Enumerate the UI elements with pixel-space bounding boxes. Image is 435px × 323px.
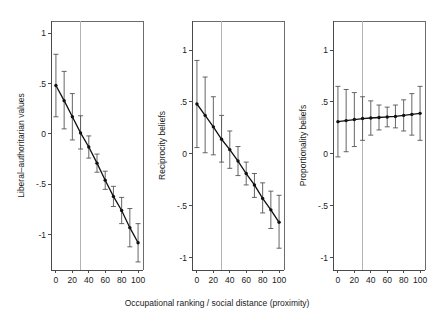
y-tick-label: 1: [41, 28, 46, 38]
panel-chart-svg: 1.50-.5-1020406080100Liberal–authoritari…: [0, 0, 435, 323]
x-tick-label: 80: [258, 275, 268, 285]
y-tick-label: .5: [321, 97, 328, 107]
y-tick-label: 0: [182, 149, 187, 159]
x-tick-label: 100: [272, 275, 286, 285]
y-tick-label: 0: [41, 129, 46, 139]
data-point: [261, 197, 264, 200]
y-tick-label: 1: [323, 45, 328, 55]
data-point: [228, 148, 231, 151]
x-tick-label: 40: [84, 275, 94, 285]
x-tick-label: 0: [195, 275, 200, 285]
y-axis-title: Liberal–authoritarian values: [16, 93, 26, 197]
data-point: [410, 113, 413, 116]
figure-container: 1.50-.5-1020406080100Liberal–authoritari…: [0, 0, 435, 323]
data-point: [79, 131, 82, 134]
x-tick-label: 80: [117, 275, 127, 285]
data-point: [71, 115, 74, 118]
data-point: [402, 114, 405, 117]
data-point: [361, 117, 364, 120]
data-point: [369, 116, 372, 119]
data-point: [336, 120, 339, 123]
x-tick-label: 60: [100, 275, 110, 285]
data-point: [344, 119, 347, 122]
y-tick-label: -1: [179, 253, 187, 263]
data-point: [353, 118, 356, 121]
data-point: [54, 84, 57, 87]
y-tick-label: -.5: [318, 201, 328, 211]
data-point: [212, 125, 215, 128]
y-tick-label: 0: [323, 149, 328, 159]
x-tick-label: 40: [225, 275, 235, 285]
y-tick-label: -1: [320, 253, 328, 263]
data-point: [136, 241, 139, 244]
data-point: [95, 161, 98, 164]
x-tick-label: 100: [413, 275, 427, 285]
x-tick-label: 0: [336, 275, 341, 285]
data-point: [253, 183, 256, 186]
data-point: [277, 221, 280, 224]
data-point: [245, 172, 248, 175]
x-axis-title: Occupational ranking / social distance (…: [125, 298, 310, 308]
y-tick-label: -.5: [177, 201, 187, 211]
data-point: [386, 115, 389, 118]
data-point: [220, 138, 223, 141]
x-tick-label: 100: [131, 275, 145, 285]
y-tick-label: .5: [180, 97, 187, 107]
x-tick-label: 80: [399, 275, 409, 285]
x-tick-label: 20: [68, 275, 78, 285]
x-tick-label: 0: [54, 275, 59, 285]
data-point: [195, 102, 198, 105]
data-point: [236, 159, 239, 162]
x-tick-label: 20: [350, 275, 360, 285]
x-tick-label: 40: [366, 275, 376, 285]
data-point: [87, 145, 90, 148]
data-point: [203, 114, 206, 117]
y-tick-label: -.5: [36, 179, 46, 189]
y-axis-title: Proportionality beliefs: [298, 105, 308, 186]
data-point: [269, 208, 272, 211]
y-axis-title: Reciprocity beliefs: [157, 111, 167, 180]
data-point: [394, 115, 397, 118]
data-point: [128, 226, 131, 229]
data-point: [377, 116, 380, 119]
data-point: [418, 112, 421, 115]
data-point: [62, 99, 65, 102]
data-point: [104, 179, 107, 182]
x-tick-label: 20: [209, 275, 219, 285]
y-tick-label: .5: [39, 79, 46, 89]
y-tick-label: 1: [182, 45, 187, 55]
data-point: [120, 209, 123, 212]
y-tick-label: -1: [38, 230, 46, 240]
x-tick-label: 60: [382, 275, 392, 285]
x-tick-label: 60: [241, 275, 251, 285]
data-point: [112, 195, 115, 198]
